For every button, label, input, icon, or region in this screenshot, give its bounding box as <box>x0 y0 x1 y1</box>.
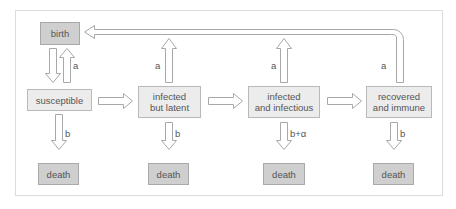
node-latent-label-line2: but latent <box>150 102 189 113</box>
arrow-infectious-up <box>277 39 292 83</box>
node-infected-latent: infected but latent <box>138 86 201 118</box>
node-infected-infectious: infected and infectious <box>248 86 320 118</box>
arrow-susceptible-to-latent <box>99 94 133 109</box>
node-death-2: death <box>148 163 189 185</box>
edge-label-death-infectious: b+α <box>290 129 306 139</box>
node-birth: birth <box>40 22 80 45</box>
node-death-4-label: death <box>382 169 406 180</box>
node-infectious-label-line1: infected <box>267 91 300 102</box>
node-recovered-immune: recovered and immune <box>366 86 432 118</box>
node-recovered-label-line1: recovered <box>378 91 420 102</box>
node-infectious-label-line2: and infectious <box>255 102 314 113</box>
node-birth-label: birth <box>51 28 69 39</box>
edge-label-death-latent: b <box>175 129 180 139</box>
node-death-1: death <box>38 163 79 185</box>
node-death-4: death <box>373 163 414 185</box>
node-death-2-label: death <box>157 169 181 180</box>
node-death-1-label: death <box>47 169 71 180</box>
edge-label-death-susceptible: b <box>65 129 70 139</box>
node-susceptible-label: susceptible <box>36 95 84 106</box>
node-death-3: death <box>263 163 305 185</box>
edge-label-infectious-birth: a <box>271 61 276 71</box>
edge-label-death-recovered: b <box>400 129 405 139</box>
arrow-latent-to-infectious <box>209 94 243 109</box>
node-recovered-label-line2: and immune <box>373 102 425 113</box>
arrow-recovered-to-birth <box>85 26 404 83</box>
arrow-infectious-to-recovered <box>328 94 362 109</box>
arrow-birth-to-susceptible <box>46 49 61 83</box>
node-susceptible: susceptible <box>27 89 92 111</box>
edge-label-latent-birth: a <box>155 61 160 71</box>
node-death-3-label: death <box>272 169 296 180</box>
edge-label-susceptible-birth: a <box>73 61 78 71</box>
node-latent-label-line1: infected <box>153 91 186 102</box>
arrow-latent-up <box>162 39 177 83</box>
edge-label-recovered-birth: a <box>381 61 386 71</box>
